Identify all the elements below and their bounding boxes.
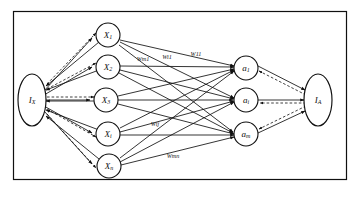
weight-label-wi1: Wi1 xyxy=(162,53,172,60)
input-to-output-edges xyxy=(118,40,234,165)
output-to-field-edges xyxy=(257,66,306,133)
weight-label-wmn: Wmn xyxy=(167,152,180,159)
outer-border xyxy=(14,12,347,180)
field-to-input-edges xyxy=(44,33,99,168)
weight-label-w11: W11 xyxy=(191,50,202,57)
neural-network-diagram: IX IA X1 X2 X3 Xi Xn a1 ai am Wm1 xyxy=(0,0,360,202)
weight-label-wm1: Wm1 xyxy=(137,55,150,62)
weight-label-wij: Wij xyxy=(151,120,160,127)
